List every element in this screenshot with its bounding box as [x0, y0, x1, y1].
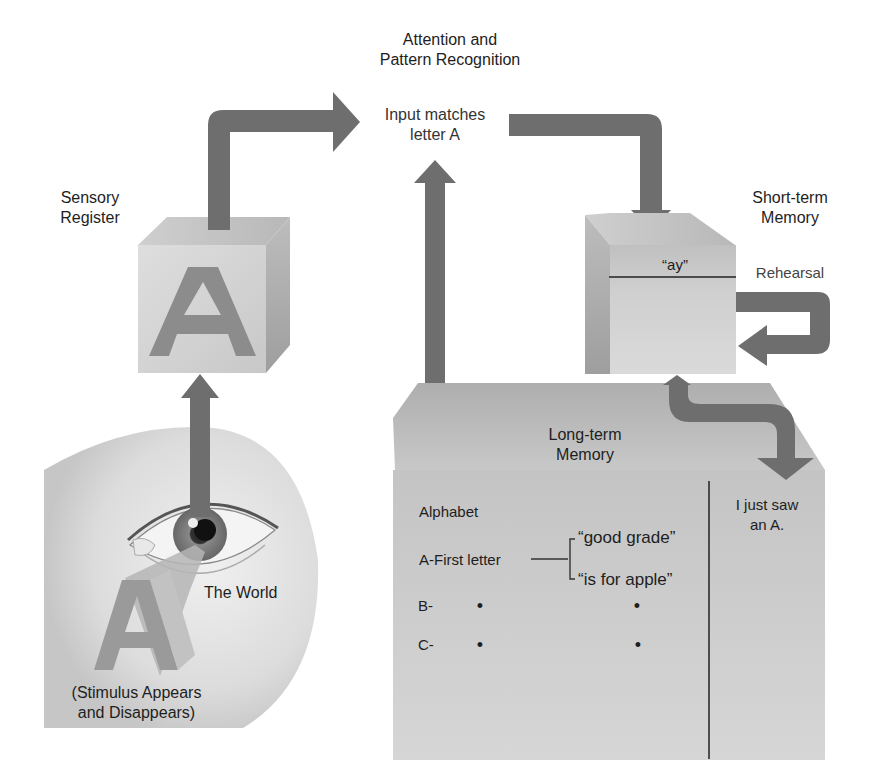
ltm-row-b-dot-1: •	[470, 596, 490, 616]
ltm-row-b-key: B-	[418, 596, 433, 616]
stm-label-line2: Memory	[735, 208, 845, 228]
sensory-register-cube	[138, 217, 290, 373]
rehearsal-loop-arrow	[736, 292, 830, 366]
short-term-memory-label: Short-term Memory	[735, 188, 845, 228]
episodic-memory-text: I just saw an A.	[712, 495, 822, 535]
ltm-row-a-key: A-First letter	[419, 550, 501, 570]
attention-text-line2: letter A	[355, 125, 515, 145]
ltm-row-a-assoc-1: “good grade”	[578, 528, 675, 548]
attention-label-line2: Pattern Recognition	[340, 50, 560, 70]
ltm-row-c-dot-2: •	[628, 635, 648, 655]
stimulus-line1: (Stimulus Appears	[44, 683, 229, 703]
ltm-label-line2: Memory	[530, 445, 640, 465]
attention-label-line1: Attention and	[340, 30, 560, 50]
attention-text-line1: Input matches	[355, 105, 515, 125]
stimulus-label: (Stimulus Appears and Disappears)	[44, 683, 229, 723]
ltm-row-c-key: C-	[418, 635, 434, 655]
ltm-label-line1: Long-term	[530, 425, 640, 445]
ltm-row-b-dot-2: •	[627, 596, 647, 616]
short-term-memory-cube	[585, 213, 736, 374]
ltm-row-c-dot-1: •	[470, 635, 490, 655]
sensory-register-label: Sensory Register	[40, 188, 140, 228]
sensory-label-line2: Register	[40, 208, 140, 228]
arrow-sensory-to-attention	[208, 92, 360, 230]
long-term-memory-label: Long-term Memory	[530, 425, 640, 465]
episodic-line2: an A.	[712, 515, 822, 535]
stm-content: “ay”	[645, 255, 705, 275]
stm-label-line1: Short-term	[735, 188, 845, 208]
ltm-row-a-assoc-2: “is for apple”	[578, 570, 672, 590]
sensory-label-line1: Sensory	[40, 188, 140, 208]
rehearsal-label: Rehearsal	[740, 263, 840, 283]
the-world-label: The World	[204, 583, 278, 603]
attention-label: Attention and Pattern Recognition	[340, 30, 560, 70]
stimulus-line2: and Disappears)	[44, 703, 229, 723]
episodic-line1: I just saw	[712, 495, 822, 515]
attention-text: Input matches letter A	[355, 105, 515, 145]
alphabet-heading: Alphabet	[419, 502, 478, 522]
